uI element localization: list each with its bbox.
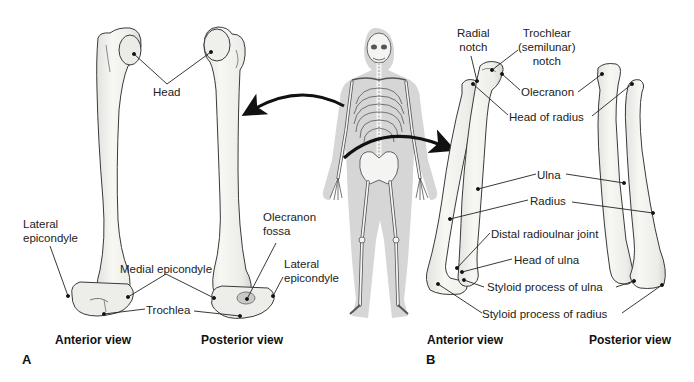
label-radius: Radius (530, 194, 566, 208)
humerus-posterior (204, 27, 274, 318)
label-trochlear-notch: Trochlear (semilunar) notch (518, 26, 576, 68)
label-lateral-epicondyle-anterior: Lateral epicondyle (23, 217, 78, 245)
label-head: Head (153, 85, 181, 99)
label-olecranon: Olecranon (521, 85, 574, 99)
skeleton-figure (323, 28, 437, 318)
panel-a-anterior-view-caption: Anterior view (55, 333, 131, 347)
arrow-to-humerus (252, 95, 344, 110)
panel-a-letter: A (22, 352, 31, 367)
label-olecranon-fossa: Olecranon fossa (263, 210, 316, 238)
panel-b-anterior-view-caption: Anterior view (427, 333, 503, 347)
label-trochlea: Trochlea (146, 303, 190, 317)
label-medial-epicondyle: Medial epicondyle (120, 262, 212, 276)
label-styloid-process-ulna: Styloid process of ulna (487, 280, 603, 294)
label-head-of-ulna: Head of ulna (514, 253, 579, 267)
figure-artwork (0, 0, 694, 382)
label-styloid-process-radius: Styloid process of radius (482, 307, 607, 321)
anatomy-figure: Head Lateral epicondyle Medial epicondyl… (0, 0, 694, 382)
forearm-posterior (597, 64, 665, 289)
panel-a-posterior-view-caption: Posterior view (201, 333, 283, 347)
label-distal-radioulnar-joint: Distal radioulnar joint (491, 227, 598, 241)
label-lateral-epicondyle-posterior: Lateral epicondyle (284, 257, 339, 285)
label-ulna: Ulna (537, 168, 561, 182)
label-head-of-radius: Head of radius (509, 110, 584, 124)
panel-b-posterior-view-caption: Posterior view (589, 333, 671, 347)
panel-b-letter: B (426, 352, 435, 367)
label-radial-notch: Radial notch (457, 26, 490, 54)
